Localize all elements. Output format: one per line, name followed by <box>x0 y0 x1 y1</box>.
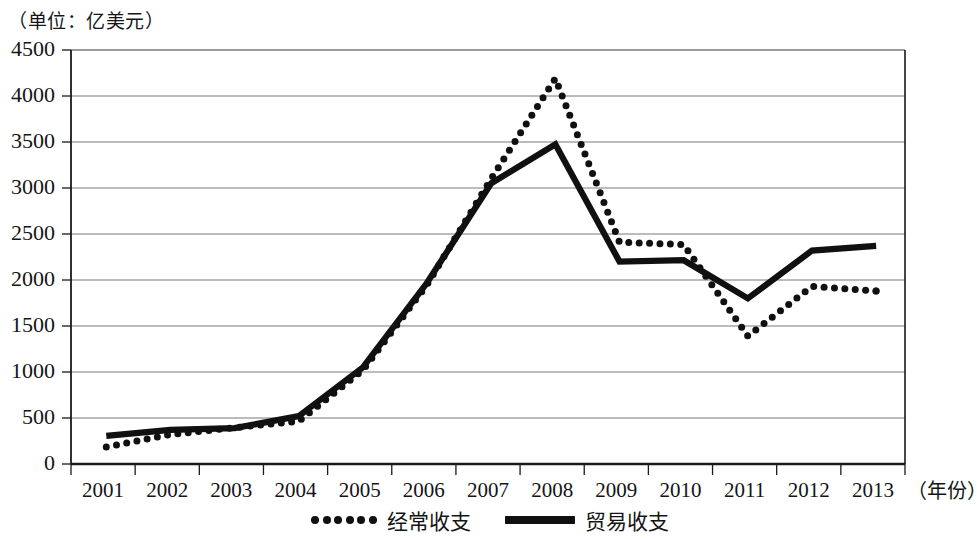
data-point-dot <box>738 324 745 331</box>
data-point-dot <box>714 290 721 297</box>
data-point-dot <box>852 286 859 293</box>
data-point-dot <box>593 180 600 187</box>
y-axis-tick-label: 500 <box>0 406 55 428</box>
data-point-dot <box>646 240 653 247</box>
data-point-dot <box>684 247 691 254</box>
data-point-dot <box>744 332 751 339</box>
legend-item-trade-balance: 贸易收支 <box>505 505 669 535</box>
y-axis-tick-label: 1500 <box>0 314 55 336</box>
data-point-dot <box>667 241 674 248</box>
data-point-dot <box>589 170 596 177</box>
data-point-dot <box>113 442 120 449</box>
data-point-dot <box>534 103 541 110</box>
data-point-dot <box>777 307 784 314</box>
data-point-dot <box>517 129 524 136</box>
x-axis-tick-label: 2010 <box>648 480 712 501</box>
data-point-dot <box>802 288 809 295</box>
data-point-dot <box>612 228 619 235</box>
chart-container: （单位：亿美元） 4500400035003000250020001500100… <box>0 0 980 539</box>
y-axis-tick-label: 0 <box>0 452 55 474</box>
data-point-dot <box>761 320 768 327</box>
data-point-dot <box>616 238 623 245</box>
legend-label-trade-balance: 贸易收支 <box>585 505 669 535</box>
x-axis-tick-label: 2007 <box>456 480 520 501</box>
data-point-dot <box>506 147 513 154</box>
data-point-dot <box>862 287 869 294</box>
gridlines <box>71 50 905 464</box>
y-axis-tick-label: 2000 <box>0 268 55 290</box>
data-point-dot <box>154 434 161 441</box>
data-point-dot <box>523 121 530 128</box>
data-point-dot <box>566 112 573 119</box>
data-point-dot <box>495 164 502 171</box>
data-point-dot <box>677 241 684 248</box>
x-axis-tick-label: 2005 <box>328 480 392 501</box>
data-point-dot <box>123 440 130 447</box>
unit-note-label: （单位：亿美元） <box>8 6 164 33</box>
data-point-dot <box>581 151 588 158</box>
data-point-dot <box>873 288 880 295</box>
data-point-dot <box>841 285 848 292</box>
data-point-dot <box>785 301 792 308</box>
data-point-dot <box>604 209 611 216</box>
x-axis-tick-label: 2002 <box>135 480 199 501</box>
y-axis-tick-label: 4500 <box>0 38 55 60</box>
data-point-dot <box>540 94 547 101</box>
x-axis-tick-label: 2003 <box>199 480 263 501</box>
data-point-dot <box>562 102 569 109</box>
data-point-dot <box>570 122 577 129</box>
dotted-line-swatch-icon <box>311 516 377 525</box>
data-point-dot <box>144 436 151 443</box>
data-point-dot <box>608 218 615 225</box>
x-axis-tick-label: 2011 <box>713 480 777 501</box>
data-point-dot <box>831 285 838 292</box>
data-point-dot <box>133 438 140 445</box>
y-tick-marks <box>62 50 71 464</box>
y-axis-tick-label: 3500 <box>0 130 55 152</box>
data-point-dot <box>103 443 110 450</box>
legend-item-current-account: 经常收支 <box>311 505 471 535</box>
data-point-dot <box>528 112 535 119</box>
chart-legend: 经常收支 贸易收支 <box>0 505 980 535</box>
data-point-dot <box>545 86 552 93</box>
x-axis-tick-label: 2001 <box>71 480 135 501</box>
data-point-dot <box>600 199 607 206</box>
x-axis-tick-label: 2006 <box>392 480 456 501</box>
x-tick-marks <box>71 464 905 475</box>
data-point-dot <box>559 92 566 99</box>
data-point-dot <box>821 284 828 291</box>
data-point-dot <box>551 77 558 84</box>
solid-line-swatch-icon <box>505 516 575 524</box>
y-axis-tick-label: 1000 <box>0 360 55 382</box>
data-point-dot <box>656 240 663 247</box>
data-point-dot <box>512 138 519 145</box>
data-point-dot <box>810 283 817 290</box>
y-axis-tick-label: 3000 <box>0 176 55 198</box>
data-point-dot <box>752 326 759 333</box>
data-point-dot <box>726 307 733 314</box>
data-point-dot <box>625 239 632 246</box>
y-axis-tick-label: 4000 <box>0 84 55 106</box>
data-point-dot <box>769 314 776 321</box>
x-axis-title: （年份） <box>907 481 980 501</box>
data-point-dot <box>574 131 581 138</box>
series-dotted-current-account <box>103 77 880 451</box>
y-axis-tick-label: 2500 <box>0 222 55 244</box>
line-chart-plot <box>0 0 980 539</box>
x-axis-tick-label: 2012 <box>777 480 841 501</box>
x-axis-tick-label: 2009 <box>584 480 648 501</box>
data-point-dot <box>578 141 585 148</box>
data-point-dot <box>636 239 643 246</box>
data-point-dot <box>585 160 592 167</box>
x-axis-tick-label: 2008 <box>520 480 584 501</box>
legend-label-current-account: 经常收支 <box>387 505 471 535</box>
data-point-dot <box>555 83 562 90</box>
data-point-dot <box>720 298 727 305</box>
data-point-dot <box>708 281 715 288</box>
axes <box>71 50 905 464</box>
x-axis-tick-label: 2004 <box>263 480 327 501</box>
data-point-dot <box>793 295 800 302</box>
x-axis-tick-label: 2013 <box>841 480 905 501</box>
data-point-dot <box>732 315 739 322</box>
data-point-dot <box>597 189 604 196</box>
